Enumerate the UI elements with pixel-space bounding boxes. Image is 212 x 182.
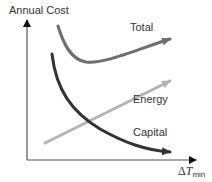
x-axis-label: ΔTmin [178, 165, 205, 179]
capital-label: Capital [133, 127, 167, 138]
y-axis-label: Annual Cost [9, 5, 69, 16]
total-label: Total [130, 22, 153, 33]
x-axis-label-sub: min [192, 170, 205, 179]
cost-vs-dtmin-chart [0, 0, 212, 182]
x-axis-label-delta: Δ [178, 164, 186, 178]
energy-label: Energy [133, 94, 168, 105]
